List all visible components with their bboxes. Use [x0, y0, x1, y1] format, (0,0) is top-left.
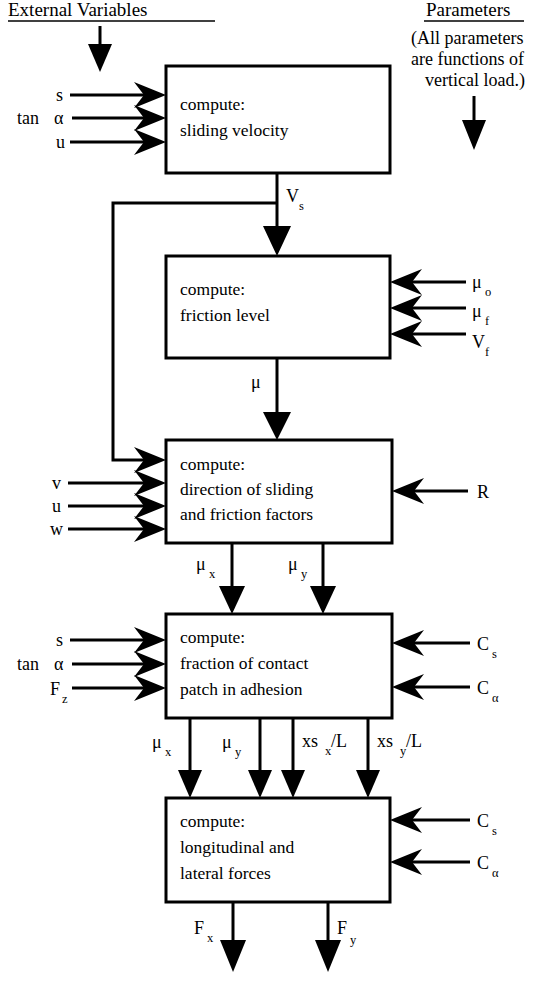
input-label-tan-2: tan	[17, 654, 39, 674]
header-parameters-label: Parameters	[426, 0, 510, 20]
wire-label-xsx-tail: /L	[331, 731, 347, 751]
input-label-cs2-base: C	[477, 811, 489, 831]
header-parameters: Parameters (All parameters are functions…	[411, 0, 525, 91]
output-label-fy-sub: y	[350, 933, 357, 947]
input-label-calpha2-base: C	[477, 853, 489, 873]
wire-label-mux-sub: x	[209, 567, 216, 581]
wire-label-muy-base: μ	[288, 554, 298, 574]
input-label-u: u	[56, 132, 65, 152]
wire-label-muy2-sub: y	[235, 745, 242, 759]
block-fraction-line-2: fraction of contact	[180, 653, 308, 673]
parameters-note-line-2: are functions of	[411, 49, 524, 69]
block-friction-level-line-2: friction level	[180, 305, 270, 325]
wire-label-xsy-tail: /L	[406, 731, 422, 751]
header-external-variables-label: External Variables	[8, 0, 147, 20]
input-label-cs-sub: s	[492, 647, 497, 661]
input-label-cs2-sub: s	[492, 824, 497, 838]
input-label-fz-sub: z	[62, 692, 68, 706]
input-label-vf-base: V	[472, 332, 485, 352]
block-fraction-line-3: patch in adhesion	[180, 679, 303, 699]
input-label-s: s	[56, 85, 63, 105]
parameters-note-line-1: (All parameters	[411, 28, 523, 49]
input-label-alpha-2: α	[54, 654, 64, 674]
wire-label-vs-sub: s	[299, 199, 304, 213]
input-label-u-2: u	[52, 496, 61, 516]
input-label-tan: tan	[17, 108, 39, 128]
block-forces-line-3: lateral forces	[180, 863, 271, 883]
parameters-note-line-3: vertical load.)	[425, 70, 525, 91]
input-label-r: R	[477, 482, 489, 502]
block-direction-of-sliding-line-2: direction of sliding	[180, 479, 313, 499]
wire-label-mux-base: μ	[196, 554, 206, 574]
wire-label-vs-base: V	[286, 186, 299, 206]
input-label-alpha: α	[54, 108, 64, 128]
input-label-v: v	[52, 473, 61, 493]
output-label-fy-base: F	[337, 918, 347, 938]
tire-model-flow-diagram: External Variables Parameters (All param…	[0, 0, 554, 984]
input-label-cs-base: C	[477, 634, 489, 654]
wire-label-mux2-base: μ	[152, 732, 162, 752]
input-label-calpha-sub: α	[492, 691, 499, 705]
input-label-w: w	[50, 519, 63, 539]
wire-label-xsy-base: xs	[377, 731, 393, 751]
input-label-calpha2-sub: α	[492, 866, 499, 880]
block-direction-of-sliding-line-3: and friction factors	[180, 504, 313, 524]
wire-label-mux2-sub: x	[165, 745, 172, 759]
block-sliding-velocity-line-1: compute:	[180, 94, 245, 114]
block-forces-line-1: compute:	[180, 811, 245, 831]
block-fraction-line-1: compute:	[180, 627, 245, 647]
wire-label-muy-sub: y	[301, 567, 308, 581]
input-label-s-2: s	[56, 630, 63, 650]
input-label-mu-o-base: μ	[472, 272, 482, 292]
block-friction-level-line-1: compute:	[180, 279, 245, 299]
input-label-fz-base: F	[50, 679, 60, 699]
output-label-fx-sub: x	[207, 931, 214, 945]
input-label-mu-o-sub: o	[485, 285, 491, 299]
input-label-mu-f-base: μ	[472, 301, 482, 321]
output-label-fx-base: F	[194, 918, 204, 938]
block-sliding-velocity-line-2: sliding velocity	[180, 120, 289, 140]
input-label-calpha-base: C	[477, 678, 489, 698]
block-direction-of-sliding-line-1: compute:	[180, 454, 245, 474]
wire-label-xsx-base: xs	[302, 731, 318, 751]
wire-label-mu: μ	[251, 372, 261, 392]
block-forces-line-2: longitudinal and	[180, 837, 294, 857]
wire-label-muy2-base: μ	[222, 732, 232, 752]
